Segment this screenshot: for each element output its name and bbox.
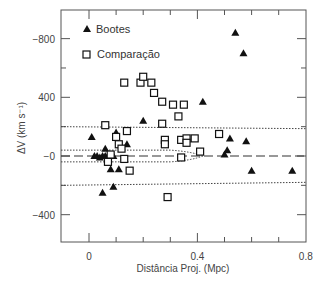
plot-frame (61, 10, 306, 242)
legend-triangle-icon (83, 25, 91, 32)
y-tick-label: −0 (44, 151, 56, 162)
bootes-triangle-marker (199, 98, 207, 105)
axis-ticks (61, 10, 306, 242)
y-tick-label: 400 (38, 92, 55, 103)
x-tick-label: 0 (86, 251, 92, 262)
comparacao-square-marker (159, 98, 166, 105)
y-tick-label: −800 (32, 34, 55, 45)
bootes-triangle-marker (226, 134, 234, 141)
comparacao-square-marker (118, 145, 125, 152)
upper-dotted-line (61, 127, 306, 129)
legend-label-bootes: Bootes (96, 23, 131, 35)
comparacao-square-marker (178, 154, 185, 161)
comparacao-square-marker (183, 139, 190, 146)
x-axis-title: Distância Proj. (Mpc) (137, 263, 230, 274)
axis-tick-labels: 00.40.8−800400−0−400 (32, 34, 313, 262)
comparacao-square-marker (148, 79, 155, 86)
comparacao-square-marker (191, 135, 198, 142)
comparacao-square-marker (164, 194, 171, 201)
bootes-triangle-marker (239, 49, 247, 56)
bootes-triangle-marker (88, 133, 96, 140)
bootes-triangle-marker (115, 165, 123, 172)
y-axis-title: ΔV (km s⁻¹) (16, 102, 27, 154)
comparacao-square-marker (113, 133, 120, 140)
comparacao-square-marker (102, 122, 109, 129)
legend-square-icon (83, 51, 90, 58)
comparacao-square-marker (121, 155, 128, 162)
comparacao-square-marker (197, 148, 204, 155)
bootes-triangle-marker (288, 167, 296, 174)
x-tick-label: 0.4 (190, 251, 204, 262)
comparacao-square-marker (104, 158, 111, 165)
comparacao-square-marker (123, 128, 130, 135)
comparacao-square-marker (216, 130, 223, 137)
comparacao-square-marker (180, 101, 187, 108)
comparacao-square-marker (107, 151, 114, 158)
bootes-triangle-marker (223, 146, 231, 153)
legend: Bootes Comparação (83, 23, 160, 60)
bootes-triangle-marker (107, 165, 115, 172)
comparacao-square-marker (140, 73, 147, 80)
scatter-chart: 00.40.8−800400−0−400 Bootes Comparação D… (0, 0, 327, 287)
comparacao-square-marker (170, 101, 177, 108)
comparacao-square-marker (121, 79, 128, 86)
comparacao-square-marker (161, 141, 168, 148)
legend-label-comparacao: Comparação (97, 48, 160, 60)
y-tick-label: −400 (32, 210, 55, 221)
bootes-triangle-marker (242, 137, 250, 144)
bootes-triangle-marker (231, 29, 239, 36)
bootes-triangle-marker (99, 189, 107, 196)
lower-dotted-line (61, 182, 306, 185)
bootes-triangle-marker (139, 117, 147, 124)
bootes-triangle-marker (248, 167, 256, 174)
comparacao-square-marker (159, 120, 166, 127)
bootes-triangle-marker (109, 183, 117, 190)
comparacao-square-marker (151, 89, 158, 96)
comparacao-square-marker (126, 167, 133, 174)
comparacao-square-marker (175, 113, 182, 120)
x-tick-label: 0.8 (299, 251, 313, 262)
